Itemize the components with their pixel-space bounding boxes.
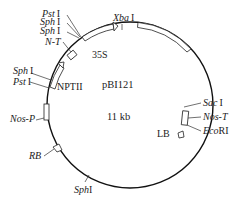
site-sac1: SacI — [203, 97, 223, 108]
feature-lb — [178, 131, 184, 138]
feature-nos-t — [181, 111, 188, 126]
site-sph1-left: SphI — [13, 65, 33, 76]
label-35s: 35S — [92, 49, 108, 60]
site-sph1-bottom: SphI — [74, 184, 92, 195]
site-sph1-top-b: SphI — [40, 25, 60, 36]
feature-n-t — [67, 50, 77, 60]
label-rb: RB — [28, 150, 41, 161]
label-lb: LB — [157, 128, 170, 139]
site-xba1: XbaI — [112, 12, 134, 23]
feature-nos-p — [44, 104, 49, 120]
site-ecori: EcoRI — [202, 125, 229, 136]
site-pst1-left: PstI — [12, 76, 31, 87]
label-nptii: NPTII — [57, 81, 83, 92]
feature-35s — [82, 22, 118, 41]
plasmid-name: pBI121 — [102, 79, 134, 90]
plasmid-size: 11 kb — [107, 111, 130, 122]
feature-rb — [53, 144, 62, 152]
label-nos-t: Nos-T — [202, 111, 229, 122]
label-n-t: N-T — [44, 36, 62, 47]
label-nos-p: Nos-P — [9, 113, 35, 124]
plasmid-map: PstI SphI SphI N-T XbaI 35S SphI PstI NP… — [0, 0, 242, 207]
feature-gus-region — [138, 22, 192, 52]
